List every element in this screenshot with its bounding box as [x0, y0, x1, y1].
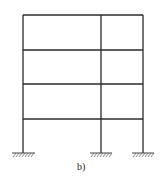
frame-diagram: b) [0, 0, 163, 178]
fixed-support-right [132, 153, 154, 157]
fixed-support-middle [90, 153, 112, 157]
fixed-support-left [12, 153, 35, 157]
beams [23, 15, 143, 119]
diagram-caption: b) [77, 161, 85, 173]
